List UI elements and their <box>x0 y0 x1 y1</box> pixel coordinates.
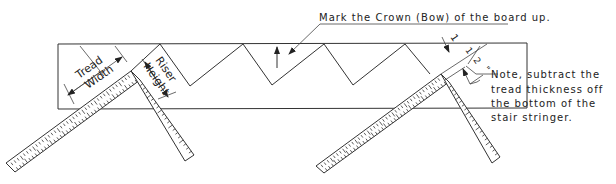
dimension-num: 1 <box>463 45 474 55</box>
crown-note: Mark the Crown (Bow) of the board up. <box>319 12 551 23</box>
dimension-whole: 1 <box>448 32 461 44</box>
note-line-1: Note, subtract the <box>491 69 600 80</box>
note-line-3: the bottom of the <box>491 98 596 109</box>
stair-stringer-diagram: Mark the Crown (Bow) of the board up. /*… <box>0 0 616 184</box>
note-line-2: tread thickness off <box>491 84 603 95</box>
note-line-4: stair stringer. <box>491 112 573 123</box>
tread-thickness-dimension: 1 1 2 " <box>441 32 498 84</box>
framing-square-right <box>316 74 500 173</box>
step-cut-zigzag <box>131 44 430 86</box>
note-block: Note, subtract the tread thickness off t… <box>491 69 603 123</box>
